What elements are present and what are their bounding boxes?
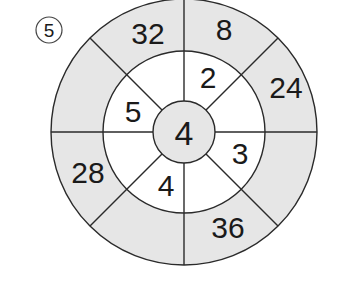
- outer-value-top-left: 32: [131, 17, 164, 50]
- center-value: 4: [175, 114, 194, 152]
- inner-value-top-right: 2: [200, 61, 217, 94]
- problem-number: 5: [44, 20, 55, 41]
- outer-value-bottom-right: 36: [211, 211, 244, 244]
- inner-value-left-upper: 5: [125, 95, 142, 128]
- puzzle-figure: 5 4 2 3 4 5 32 8: [0, 0, 345, 283]
- problem-number-badge: 5: [36, 17, 62, 43]
- inner-value-bottom-left: 4: [158, 169, 175, 202]
- outer-value-right-upper: 24: [269, 71, 302, 104]
- inner-value-right-lower: 3: [232, 137, 249, 170]
- outer-value-top-right: 8: [216, 13, 233, 46]
- outer-value-left-lower: 28: [71, 156, 104, 189]
